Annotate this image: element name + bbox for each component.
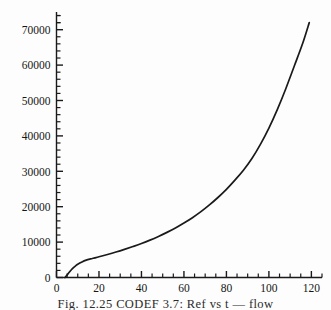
x-tick-label: 120	[303, 282, 321, 294]
y-tick-label: 50000	[22, 95, 51, 107]
chart-plot: 010000200003000040000500006000070000 020…	[0, 0, 331, 310]
y-tick-label: 70000	[22, 24, 51, 36]
y-tick-label: 30000	[22, 166, 51, 178]
series-line-curve	[65, 23, 309, 278]
figure-caption: Fig. 12.25 CODEF 3.7: Ref vs t — flow	[0, 297, 331, 310]
y-tick-label: 40000	[22, 130, 51, 142]
figure-container: 010000200003000040000500006000070000 020…	[0, 0, 331, 310]
x-tick-label: 60	[178, 282, 190, 294]
y-tick-label: 60000	[22, 59, 51, 71]
x-axis-ticks	[57, 271, 323, 278]
x-tick-label: 100	[260, 282, 278, 294]
x-tick-label: 40	[136, 282, 148, 294]
y-tick-label: 20000	[22, 201, 51, 213]
x-tick-label: 80	[221, 282, 233, 294]
data-series-group	[65, 23, 309, 278]
y-tick-label: 0	[45, 272, 51, 284]
y-axis-ticks	[57, 16, 64, 278]
x-tick-label: 20	[93, 282, 105, 294]
y-tick-label: 10000	[22, 236, 51, 248]
x-axis-tick-labels: 020406080100120	[54, 282, 321, 294]
axes-group	[57, 12, 323, 278]
x-tick-label: 0	[54, 282, 60, 294]
y-axis-tick-labels: 010000200003000040000500006000070000	[22, 24, 51, 284]
